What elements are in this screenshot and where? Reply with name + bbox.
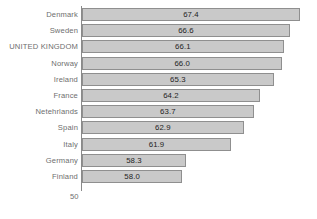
bar-row: Sweden66.6 xyxy=(0,23,317,39)
bar-value-label: 64.2 xyxy=(83,90,259,103)
bar: 67.4 xyxy=(82,8,300,21)
bar-row: Finland58.0 xyxy=(0,169,317,185)
bar-row: France64.2 xyxy=(0,88,317,104)
bar-container: 61.9 xyxy=(82,138,231,151)
category-label: France xyxy=(0,89,78,102)
bar: 61.9 xyxy=(82,138,231,151)
bar-row: UNITED KINGDOM66.1 xyxy=(0,39,317,55)
category-label: Sweden xyxy=(0,24,78,37)
category-label: Germany xyxy=(0,154,78,167)
bar-container: 66.6 xyxy=(82,24,290,37)
bar-value-label: 67.4 xyxy=(83,9,299,22)
bar-container: 58.0 xyxy=(82,170,182,183)
bar: 66.1 xyxy=(82,40,284,53)
bar: 63.7 xyxy=(82,105,254,118)
bar-value-label: 61.9 xyxy=(83,139,230,152)
category-label: Denmark xyxy=(0,8,78,21)
bar-container: 66.0 xyxy=(82,57,282,70)
bar-row: Denmark67.4 xyxy=(0,7,317,23)
bar-row: Spain62.9 xyxy=(0,120,317,136)
axis-min-tick-label: 50 xyxy=(70,192,79,201)
horizontal-bar-chart: Denmark67.4Sweden66.6UNITED KINGDOM66.1N… xyxy=(0,0,317,219)
category-label: Italy xyxy=(0,138,78,151)
bar-container: 58.3 xyxy=(82,154,186,167)
category-label: Netehrlands xyxy=(0,105,78,118)
bar: 64.2 xyxy=(82,89,260,102)
bar-value-label: 63.7 xyxy=(83,106,253,119)
bar: 66.6 xyxy=(82,24,290,37)
bar-value-label: 66.6 xyxy=(83,25,289,38)
bar-row: Germany58.3 xyxy=(0,153,317,169)
category-label: Spain xyxy=(0,121,78,134)
category-label: UNITED KINGDOM xyxy=(0,40,78,53)
bar-row: Ireland65.3 xyxy=(0,72,317,88)
category-label: Ireland xyxy=(0,73,78,86)
bar-row: Netehrlands63.7 xyxy=(0,104,317,120)
bar: 58.0 xyxy=(82,170,182,183)
bar: 62.9 xyxy=(82,121,244,134)
category-label: Norway xyxy=(0,57,78,70)
bar: 65.3 xyxy=(82,73,274,86)
bar-value-label: 65.3 xyxy=(83,74,273,87)
bar-value-label: 58.0 xyxy=(83,171,181,184)
bar-container: 64.2 xyxy=(82,89,260,102)
bar: 66.0 xyxy=(82,57,282,70)
bar-row: Italy61.9 xyxy=(0,137,317,153)
bar-container: 65.3 xyxy=(82,73,274,86)
bar: 58.3 xyxy=(82,154,186,167)
bar-value-label: 62.9 xyxy=(83,122,243,135)
bar-value-label: 58.3 xyxy=(83,155,185,168)
bar-value-label: 66.0 xyxy=(83,58,281,71)
bar-row: Norway66.0 xyxy=(0,56,317,72)
bar-container: 67.4 xyxy=(82,8,300,21)
bar-container: 63.7 xyxy=(82,105,254,118)
bar-container: 62.9 xyxy=(82,121,244,134)
bar-value-label: 66.1 xyxy=(83,41,283,54)
bar-rows-container: Denmark67.4Sweden66.6UNITED KINGDOM66.1N… xyxy=(0,7,317,185)
category-label: Finland xyxy=(0,170,78,183)
bar-container: 66.1 xyxy=(82,40,284,53)
